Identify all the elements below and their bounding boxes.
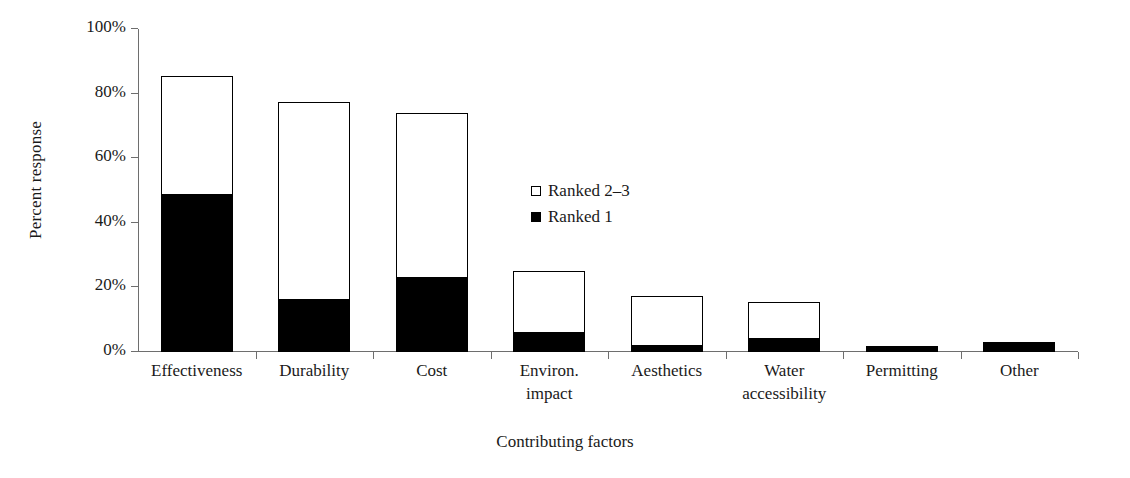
y-tick-label: 80% — [95, 82, 126, 102]
bar-segment-ranked-2-3 — [748, 302, 820, 339]
x-tick — [491, 352, 492, 359]
y-tick: 80% — [131, 93, 138, 94]
x-tick — [961, 352, 962, 359]
y-tick: 0% — [131, 351, 138, 352]
bar-segment-ranked-1 — [513, 333, 585, 352]
bar-segment-ranked-1 — [278, 300, 350, 352]
y-tick: 60% — [131, 157, 138, 158]
x-axis-label: Environ. impact — [491, 360, 609, 405]
y-tick: 100% — [131, 28, 138, 29]
bar-segment-ranked-1 — [866, 346, 938, 352]
y-axis-line — [138, 29, 139, 352]
x-axis-label: Water accessibility — [726, 360, 844, 405]
bar-durability — [278, 103, 350, 352]
legend-item-ranked-2-3: Ranked 2–3 — [531, 178, 630, 204]
x-axis-label: Permitting — [843, 360, 961, 383]
bar-segment-ranked-1 — [631, 346, 703, 352]
bar-segment-ranked-1 — [161, 195, 233, 352]
x-axis-label: Durability — [256, 360, 374, 383]
bar-other — [983, 342, 1055, 352]
y-tick: 20% — [131, 286, 138, 287]
y-axis-title: Percent response — [26, 80, 46, 280]
x-axis-label: Cost — [373, 360, 491, 383]
bar-segment-ranked-2-3 — [396, 113, 468, 278]
x-tick — [608, 352, 609, 359]
hollow-square-icon — [531, 186, 541, 196]
chart-legend: Ranked 2–3 Ranked 1 — [531, 178, 630, 230]
y-tick-label: 40% — [95, 211, 126, 231]
bar-segment-ranked-2-3 — [161, 76, 233, 195]
bar-permitting — [866, 346, 938, 352]
bar-segment-ranked-2-3 — [513, 271, 585, 332]
legend-label: Ranked 2–3 — [548, 181, 630, 201]
x-axis-label: Other — [961, 360, 1079, 383]
bar-segment-ranked-2-3 — [278, 102, 350, 301]
x-tick — [1078, 352, 1079, 359]
bar-aesthetics — [631, 297, 703, 352]
x-tick — [373, 352, 374, 359]
y-tick-label: 20% — [95, 275, 126, 295]
filled-square-icon — [531, 212, 541, 222]
bar-cost — [396, 115, 468, 352]
bar-segment-ranked-1 — [983, 342, 1055, 352]
legend-item-ranked-1: Ranked 1 — [531, 204, 630, 230]
x-axis-label: Aesthetics — [608, 360, 726, 383]
x-tick — [256, 352, 257, 359]
bar-chart: Percent response 0%20%40%60%80%100% Effe… — [0, 0, 1130, 478]
y-tick-label: 100% — [86, 17, 126, 37]
bar-effectiveness — [161, 77, 233, 352]
x-axis-title: Contributing factors — [0, 432, 1130, 452]
y-tick: 40% — [131, 222, 138, 223]
y-tick-label: 0% — [103, 340, 126, 360]
bar-segment-ranked-1 — [748, 339, 820, 352]
y-tick-label: 60% — [95, 146, 126, 166]
bar-water-accessibility — [748, 304, 820, 352]
legend-label: Ranked 1 — [548, 207, 613, 227]
x-axis-label: Effectiveness — [138, 360, 256, 383]
bar-environ-impact — [513, 273, 585, 352]
bar-segment-ranked-1 — [396, 278, 468, 352]
x-tick — [843, 352, 844, 359]
bar-segment-ranked-2-3 — [631, 296, 703, 346]
x-tick — [726, 352, 727, 359]
